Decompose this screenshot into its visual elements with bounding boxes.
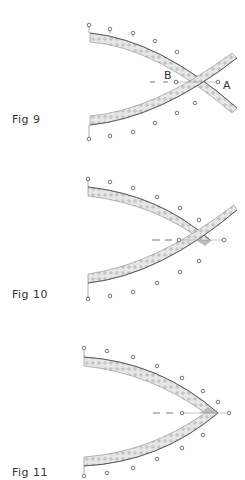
fig9-label: Fig 9: [12, 113, 41, 126]
diagram-canvas: B A: [0, 0, 245, 480]
fig11-center-line: [153, 411, 231, 415]
fig11-bottom-strip: [84, 413, 218, 466]
fig10-overlap: [196, 240, 212, 246]
point-b-label: B: [164, 69, 172, 82]
fig10-diagram: [86, 177, 237, 301]
fig11-top-strip: [84, 357, 218, 413]
fig9-diagram: B A: [87, 23, 237, 141]
fig11-label: Fig 11: [12, 466, 48, 479]
point-a-label: A: [223, 79, 231, 92]
fig11-diagram: [82, 346, 231, 478]
fig10-label: Fig 10: [12, 288, 48, 301]
